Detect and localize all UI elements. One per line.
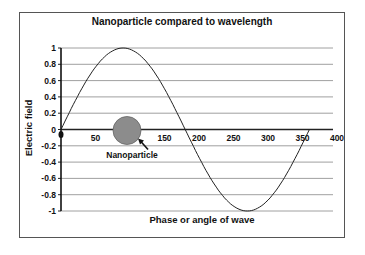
origin-marker [59, 131, 64, 138]
y-tick-label: -0.2 [41, 141, 56, 151]
x-tick-label: 250 [226, 133, 240, 143]
y-tick-label: -0.8 [41, 190, 56, 200]
y-tick-label: -0.4 [41, 157, 56, 167]
x-tick-label: 150 [157, 133, 171, 143]
y-tick-label: 0 [51, 125, 56, 135]
plot-area: 10.80.60.40.20-0.2-0.4-0.6-0.8-150150200… [0, 0, 365, 255]
y-tick-label: 0.2 [44, 108, 56, 118]
nanoparticle-label: Nanoparticle [106, 150, 158, 160]
y-tick-label: 0.8 [44, 59, 56, 69]
x-tick-label: 300 [261, 133, 275, 143]
y-tick-label: 0.4 [44, 92, 56, 102]
x-tick-label: 200 [192, 133, 206, 143]
y-tick-label: 0.6 [44, 76, 56, 86]
x-tick-label: 50 [91, 133, 101, 143]
y-tick-label: 1 [51, 43, 56, 53]
y-tick-label: -1 [48, 206, 56, 216]
y-tick-label: -0.6 [41, 173, 56, 183]
nanoparticle-circle [113, 117, 141, 145]
x-tick-label: 400 [330, 133, 344, 143]
